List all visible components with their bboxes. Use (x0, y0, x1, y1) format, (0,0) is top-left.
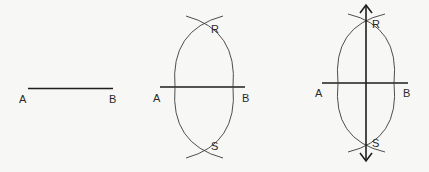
panel-3: A B R S (315, 5, 410, 161)
label-s: S (211, 140, 218, 152)
label-b: B (109, 93, 116, 105)
label-r: R (372, 18, 380, 30)
label-a: A (153, 92, 161, 104)
label-b: B (403, 87, 410, 99)
label-a: A (315, 87, 323, 99)
label-b: B (242, 92, 249, 104)
label-a: A (19, 93, 27, 105)
panel-1: A B (19, 89, 116, 106)
panel-2: A B R S (153, 16, 249, 158)
label-s: S (372, 137, 379, 149)
diagram: A B A B R S A B R S (0, 0, 429, 172)
label-r: R (211, 23, 219, 35)
